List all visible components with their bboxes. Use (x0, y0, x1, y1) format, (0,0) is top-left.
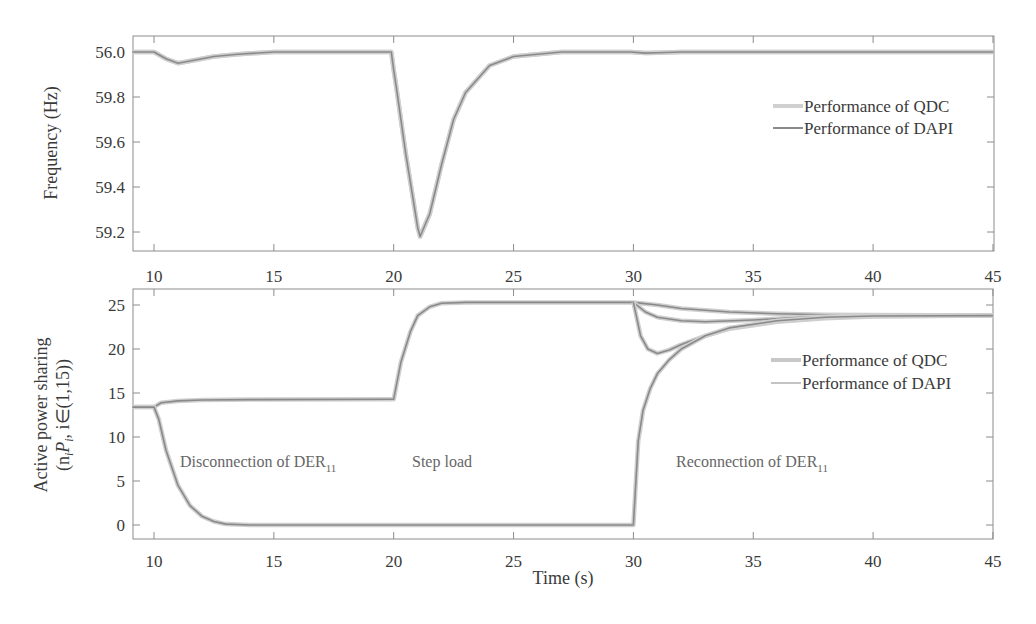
power-y-label-line1: Active power sharing (31, 338, 51, 493)
x-tick-label: 20 (385, 267, 402, 286)
power-y-axis-label: Active power sharing (niPi, i∈(1,15)) (31, 338, 76, 493)
y-tick-label: 56.0 (95, 43, 125, 62)
annotation-step-load: Step load (412, 453, 472, 471)
legend-label-dapi: Performance of DAPI (802, 374, 952, 393)
series-line-halo (132, 316, 993, 525)
annotation-reconnection: Reconnection of DER11 (676, 453, 828, 474)
power-series (132, 302, 993, 525)
x-tick-label: 25 (505, 267, 522, 286)
y-tick-label: 5 (117, 472, 126, 491)
power-axes-frame (133, 289, 993, 539)
y-tick-label: 59.8 (95, 88, 125, 107)
x-tick-label: 35 (745, 552, 762, 571)
frequency-chart: 1015202530354045 56.059.859.659.459.2 Fr… (41, 36, 1001, 286)
x-tick-label: 40 (865, 552, 882, 571)
x-tick-label: 25 (505, 552, 522, 571)
power-y-ticks: 0510152025 (108, 296, 993, 535)
y-tick-label: 59.4 (95, 178, 125, 197)
legend-label-dapi: Performance of DAPI (804, 119, 954, 138)
power-legend: Performance of QDC Performance of DAPI (771, 351, 952, 393)
x-tick-label: 35 (745, 267, 762, 286)
legend-label-qdc: Performance of QDC (802, 351, 947, 370)
x-tick-label: 30 (625, 267, 642, 286)
y-tick-label: 15 (108, 384, 125, 403)
x-tick-label: 40 (865, 267, 882, 286)
y-tick-label: 20 (108, 340, 125, 359)
x-tick-label: 15 (265, 267, 282, 286)
power-x-ticks: 1015202530354045 (146, 289, 1002, 571)
power-y-label-line2: (niPi, i∈(1,15)) (53, 359, 76, 471)
x-tick-label: 10 (146, 267, 163, 286)
frequency-y-axis-label: Frequency (Hz) (41, 86, 62, 199)
series-line (132, 52, 993, 237)
series-line-halo (132, 52, 993, 237)
frequency-axes-frame (133, 36, 994, 251)
frequency-legend: Performance of QDC Performance of DAPI (773, 97, 954, 138)
y-tick-label: 10 (108, 428, 125, 447)
y-tick-label: 59.6 (95, 133, 125, 152)
frequency-x-ticks: 1015202530354045 (146, 36, 1002, 286)
series-line (132, 52, 993, 237)
x-tick-label: 45 (984, 552, 1001, 571)
figure: 1015202530354045 56.059.859.659.459.2 Fr… (0, 0, 1036, 624)
x-tick-label: 10 (146, 552, 163, 571)
frequency-series (132, 52, 993, 237)
x-tick-label: 20 (385, 552, 402, 571)
y-tick-label: 0 (117, 516, 126, 535)
x-tick-label: 15 (265, 552, 282, 571)
legend-label-qdc: Performance of QDC (804, 97, 949, 116)
y-tick-label: 59.2 (95, 223, 125, 242)
power-sharing-chart: 1015202530354045 0510152025 Active power… (31, 289, 1001, 589)
x-axis-label: Time (s) (533, 568, 594, 589)
x-tick-label: 30 (625, 552, 642, 571)
frequency-y-ticks: 56.059.859.659.459.2 (95, 43, 994, 242)
annotation-disconnection: Disconnection of DER11 (180, 453, 336, 474)
series-line (132, 316, 993, 525)
x-tick-label: 45 (984, 267, 1001, 286)
y-tick-label: 25 (108, 296, 125, 315)
series-line-halo (132, 52, 993, 237)
